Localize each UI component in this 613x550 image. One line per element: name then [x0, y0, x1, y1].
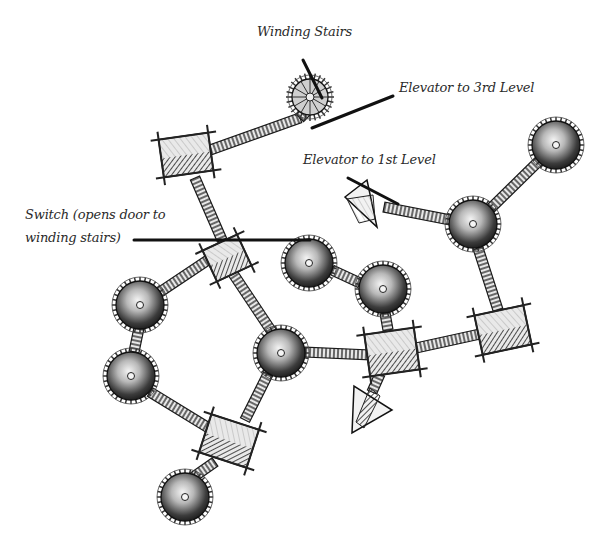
elevator-south	[352, 386, 392, 433]
corridor	[473, 246, 503, 311]
corridor	[305, 347, 370, 360]
winding-stairs-tower	[286, 73, 334, 121]
corridor	[190, 176, 226, 242]
corridor	[228, 269, 276, 335]
label-elevator-1st-level: Elevator to 1st Level	[303, 150, 436, 169]
label-winding-stairs: Winding Stairs	[257, 22, 352, 41]
tower-south	[157, 469, 213, 525]
hall-nw	[150, 124, 223, 187]
tower-west-upper	[112, 277, 168, 333]
tower-mid-b	[355, 261, 411, 317]
tower-east-hub	[445, 196, 501, 252]
rooms	[103, 73, 584, 525]
corridor	[415, 329, 481, 353]
label-switch-line2: winding stairs)	[25, 228, 121, 247]
corridor	[380, 312, 393, 331]
elevator-1st-level	[345, 180, 377, 227]
corridor	[383, 202, 451, 225]
tower-mid-a	[281, 235, 337, 291]
corridor	[241, 372, 273, 422]
tower-ne	[528, 117, 584, 173]
tower-west-lower	[103, 348, 159, 404]
tower-central	[253, 325, 309, 381]
corridor	[488, 156, 544, 211]
label-switch-line1: Switch (opens door to	[25, 205, 165, 224]
corridor	[208, 113, 301, 154]
label-elevator-3rd-level: Elevator to 3rd Level	[399, 78, 534, 97]
